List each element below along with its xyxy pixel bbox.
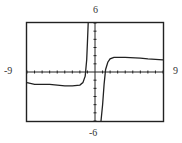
right-branch-curve xyxy=(101,57,163,121)
left-branch-curve xyxy=(27,23,88,86)
axes xyxy=(27,23,163,121)
graph-screen xyxy=(0,0,182,143)
